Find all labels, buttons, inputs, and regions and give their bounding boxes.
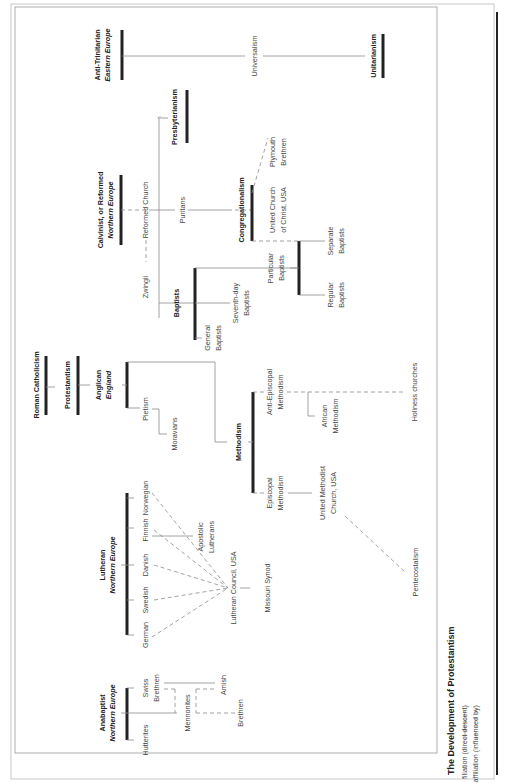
- calvinist-label: Calvinist, or Reformed: [96, 172, 105, 249]
- hutterites-label: Hutterites: [141, 724, 150, 755]
- regular-baptists-label-2: Baptists: [337, 282, 346, 308]
- outer-frame: [11, 4, 494, 779]
- seventh-day-label: Seventh-day: [231, 282, 240, 323]
- puritans-label: Puritans: [178, 196, 187, 223]
- mennonites-label: Mennonites: [183, 694, 192, 732]
- finnish-label: Finnish: [141, 518, 150, 541]
- african-methodism-label: African: [320, 405, 329, 427]
- lutheran-council-label: Lutheran Council, USA: [229, 551, 238, 624]
- labels: Anti-Trinitarian Eastern Europe Universa…: [32, 28, 480, 782]
- lutheran-region: Northern Europe: [108, 536, 117, 593]
- holiness-churches-label: Holiness churches: [410, 362, 419, 421]
- moravians-label: Moravians: [170, 417, 179, 451]
- amish-label: Amish: [219, 675, 228, 695]
- methodism-label: Methodism: [234, 423, 243, 461]
- anglican-region: England: [104, 370, 113, 399]
- anabaptist-region: Northern Europe: [108, 684, 117, 741]
- plymouth-brethren-label: Plymouth: [268, 137, 277, 167]
- universalism-label: Universalism: [250, 35, 259, 76]
- separate-baptists-label-2: Baptists: [337, 228, 346, 254]
- congregationalism-label: Congregationalism: [237, 177, 246, 242]
- ucc-label-2: of Christ, USA: [279, 187, 288, 233]
- regular-baptists-label: Regular: [326, 282, 335, 308]
- brethren-label: Brethren: [236, 699, 245, 727]
- anti-trinitarian-label: Anti-Trinitarian: [93, 29, 102, 80]
- baptists-label: Baptists: [172, 289, 181, 317]
- diagram-title: The Development of Protestantism: [446, 626, 456, 775]
- apostolic-lutherans-label: Apostolic: [196, 522, 205, 552]
- danish-label: Danish: [141, 554, 150, 576]
- umc-label: United Methodist: [318, 466, 327, 520]
- separate-baptists-label: Separate: [326, 226, 335, 255]
- anti-episcopal-label-2: Methodism: [276, 374, 285, 409]
- norwegian-label: Norwegian: [141, 481, 150, 515]
- protestantism-diagram: Anti-Trinitarian Eastern Europe Universa…: [0, 0, 506, 783]
- pietism-label: Pietism: [141, 397, 150, 421]
- lutheran-label: Lutheran: [98, 550, 107, 581]
- missouri-synod-label: Missouri Synod: [263, 563, 272, 612]
- particular-baptists-label: Particular: [266, 252, 275, 283]
- seventh-day-label-2: Baptists: [242, 290, 251, 316]
- anabaptist-label: Anabaptist: [98, 694, 107, 732]
- plymouth-brethren-label-2: Brethren: [279, 138, 288, 166]
- legend-filiation: filiation (direct descent): [460, 705, 469, 779]
- swedish-label: Swedish: [141, 586, 150, 613]
- anti-trinitarian-region: Eastern Europe: [103, 28, 112, 81]
- unitarianism-label: Unitarianism: [369, 34, 378, 78]
- episcopal-methodism-label: Episcopal: [265, 477, 274, 509]
- presbyterianism-label: Presbyterianism: [170, 89, 179, 145]
- protestantism-label: Protestantism: [63, 361, 72, 409]
- general-baptists-label-2: Baptists: [214, 325, 223, 351]
- apostolic-lutherans-label-2: Lutherans: [207, 521, 216, 553]
- anti-episcopal-label: Anti-Episcopal: [265, 369, 274, 415]
- general-baptists-label: General: [203, 325, 212, 351]
- swiss-brethren-label-2: Brethren: [152, 674, 161, 702]
- anglican-label: Anglican: [94, 370, 103, 400]
- african-methodism-label-2: Methodism: [331, 398, 340, 433]
- particular-baptists-label-2: Baptists: [277, 255, 286, 281]
- roman-catholicism-label: Roman Catholicism: [32, 351, 41, 418]
- calvinist-region: Northern Europe: [106, 181, 115, 238]
- german-label: German: [141, 622, 150, 648]
- umc-label-2: Church, USA: [329, 472, 338, 514]
- pentecostalism-label: Pentecostalism: [411, 548, 420, 597]
- legend-affiliation: affiliation (influenced by): [471, 705, 480, 782]
- reformed-church-label: Reformed Church: [141, 182, 150, 239]
- ucc-label: United Church: [268, 187, 277, 233]
- episcopal-methodism-label-2: Methodism: [276, 475, 285, 510]
- zwingli-label: Zwingli: [141, 275, 150, 298]
- swiss-brethren-label: Swiss: [141, 678, 150, 697]
